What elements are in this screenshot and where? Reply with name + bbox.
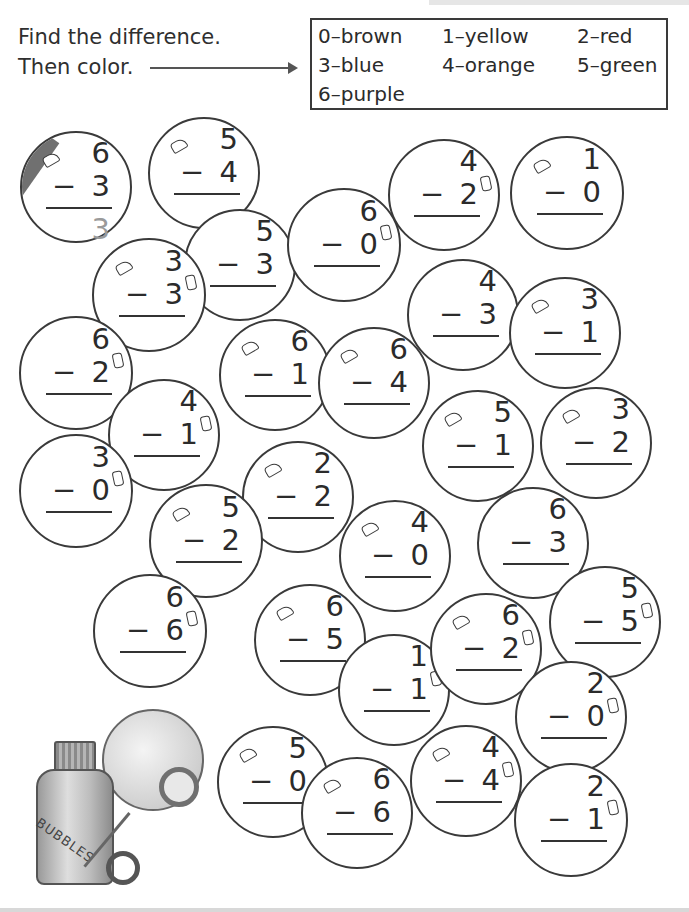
bubble-shine-icon (522, 629, 535, 646)
subtrahend: 1 (587, 805, 605, 834)
answer-line (46, 393, 112, 395)
subtraction-bubble[interactable]: 4−2 (388, 139, 500, 251)
subtraction-problem: 3−0 (52, 443, 110, 543)
minuend: 5 (621, 574, 639, 603)
minus-sign: − (52, 358, 76, 387)
subtrahend: 2 (460, 180, 478, 209)
minus-sign: − (541, 318, 565, 347)
subtraction-bubble[interactable]: 4−0 (339, 500, 451, 612)
answer-line (46, 511, 112, 513)
minuend: 6 (92, 139, 110, 168)
subtraction-bubble[interactable]: 2−0 (515, 661, 627, 773)
answer-line (414, 215, 480, 217)
subtraction-bubble[interactable]: 6−33 (20, 131, 132, 243)
subtraction-problem: 5−0 (249, 734, 307, 834)
subtrahend: 3 (92, 172, 110, 201)
subtrahend: 6 (373, 798, 391, 827)
bubble-bottle-illustration: BUBBLES (28, 705, 208, 895)
minus-sign: − (180, 158, 204, 187)
bubble-shine-icon (200, 415, 213, 432)
wand-ring-icon (159, 767, 199, 807)
answer-line (344, 403, 410, 405)
minus-sign: − (251, 360, 275, 389)
answer-line (243, 802, 309, 804)
subtraction-problem: 4−4 (442, 733, 500, 833)
subtraction-bubble[interactable]: 4−4 (410, 725, 522, 837)
subtrahend: 1 (410, 675, 428, 704)
answer-line (541, 840, 607, 842)
subtrahend: 4 (482, 766, 500, 795)
subtraction-bubble[interactable]: 3−2 (540, 387, 652, 499)
subtraction-problem: 6−2 (52, 325, 110, 425)
minus-sign: − (439, 300, 463, 329)
subtrahend: 0 (92, 476, 110, 505)
key-item-0-brown: 0–brown (318, 22, 442, 51)
minus-sign: − (581, 607, 605, 636)
bubble-shine-icon (641, 602, 654, 619)
subtrahend: 1 (180, 420, 198, 449)
subtraction-bubble[interactable]: 4−3 (407, 259, 519, 371)
answer-line (456, 669, 522, 671)
minus-sign: − (274, 482, 298, 511)
subtrahend: 3 (549, 528, 567, 557)
color-key-row: 3–blue 4–orange 5–green (318, 51, 660, 80)
minus-sign: − (52, 172, 76, 201)
page-edge-strip (429, 0, 689, 5)
minuend: 1 (583, 145, 601, 174)
wand-handle-icon (106, 851, 140, 885)
subtrahend: 5 (621, 607, 639, 636)
subtraction-problem: 4−0 (371, 508, 429, 608)
subtrahend: 1 (494, 431, 512, 460)
key-item-3-blue: 3–blue (318, 51, 442, 80)
subtraction-problem: 4−3 (439, 267, 497, 367)
subtraction-bubble[interactable]: 6−6 (93, 574, 207, 688)
minus-sign: − (350, 368, 374, 397)
minus-sign: − (371, 541, 395, 570)
bubble-shine-icon (607, 697, 620, 714)
subtraction-bubble[interactable]: 3−1 (509, 277, 621, 389)
subtraction-problem: 2−1 (547, 772, 605, 872)
subtraction-problem: 6−4 (350, 335, 408, 435)
subtraction-problem: 3−1 (541, 285, 599, 385)
subtraction-bubble[interactable]: 6−0 (287, 188, 401, 302)
arrow-right-icon (288, 62, 298, 74)
minus-sign: − (52, 476, 76, 505)
minuend: 2 (314, 449, 332, 478)
answer-line (503, 563, 569, 565)
subtraction-problem: 6−33 (52, 139, 110, 239)
key-item-4-orange: 4–orange (442, 51, 577, 80)
subtraction-problem: 4−1 (140, 387, 198, 487)
subtraction-bubble[interactable]: 2−1 (514, 763, 628, 877)
minuend: 6 (360, 197, 378, 226)
minus-sign: − (543, 178, 567, 207)
subtraction-bubble[interactable]: 6−4 (318, 327, 430, 439)
subtrahend: 1 (291, 360, 309, 389)
minuend: 6 (373, 765, 391, 794)
subtraction-problem: 3−2 (572, 395, 630, 495)
answer-line (120, 651, 186, 653)
minuend: 6 (166, 583, 184, 612)
minus-sign: − (454, 431, 478, 460)
minuend: 4 (482, 733, 500, 762)
minus-sign: − (572, 428, 596, 457)
subtraction-bubble[interactable]: 1−0 (510, 136, 624, 250)
minus-sign: − (462, 634, 486, 663)
subtraction-bubble[interactable]: 3−0 (19, 434, 133, 548)
subtraction-problem: 6−1 (251, 327, 309, 427)
subtraction-problem: 5−3 (216, 217, 274, 317)
color-key: 0–brown 1–yellow 2–red 3–blue 4–orange 5… (310, 18, 668, 110)
answer-line (566, 463, 632, 465)
subtraction-bubble[interactable]: 5−1 (422, 390, 534, 502)
subtraction-bubble[interactable]: 6−1 (219, 319, 331, 431)
minus-sign: − (182, 526, 206, 555)
subtraction-problem: 5−1 (454, 398, 512, 498)
answer-line (46, 207, 112, 209)
bubble-shine-icon (380, 224, 393, 241)
minus-sign: − (370, 675, 394, 704)
minuend: 5 (289, 734, 307, 763)
subtraction-bubble[interactable]: 6−6 (301, 757, 413, 869)
answer-line (314, 265, 380, 267)
subtrahend: 6 (166, 616, 184, 645)
subtraction-problem: 6−3 (509, 495, 567, 595)
page-edge-strip (0, 908, 689, 912)
